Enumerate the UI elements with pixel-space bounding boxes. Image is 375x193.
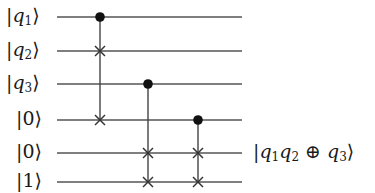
xor-operator: ⊕ bbox=[305, 140, 321, 162]
output-symbol: q bbox=[327, 140, 339, 162]
quantum-circuit-diagram: |q1⟩ |q2⟩ |q3⟩ |0⟩ |0⟩ |1⟩ bbox=[0, 0, 375, 193]
output-subscript: 3 bbox=[339, 150, 347, 164]
output-symbol: q bbox=[279, 140, 291, 162]
control-dot-icon bbox=[143, 79, 153, 89]
fredkin-gate-3 bbox=[193, 115, 203, 187]
fredkin-gate-2 bbox=[143, 79, 153, 187]
control-dot-icon bbox=[95, 12, 105, 22]
output-symbol: q bbox=[259, 140, 271, 162]
output-label: |q1q2 ⊕ q3⟩ bbox=[253, 142, 354, 163]
wires bbox=[57, 17, 242, 182]
control-dot-icon bbox=[193, 115, 203, 125]
circuit-svg bbox=[0, 0, 375, 193]
output-subscript: 2 bbox=[291, 150, 299, 164]
fredkin-gate-1 bbox=[95, 12, 105, 125]
